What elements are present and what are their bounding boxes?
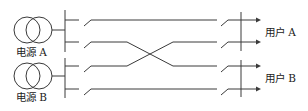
switch-icon [84, 42, 91, 48]
switch-icon [84, 89, 91, 95]
transformer-a-icon [14, 17, 65, 43]
power-wiring-diagram: 电源 A 电源 B [0, 0, 308, 111]
feeder-a-to-user-b [65, 42, 261, 72]
user-a-label: 用户 A [265, 26, 296, 38]
switch-icon [84, 66, 91, 72]
source-a-label: 电源 A [16, 46, 47, 58]
switch-icon [221, 42, 228, 48]
arrow-right-icon [256, 40, 261, 45]
user-b-label: 用户 B [265, 72, 296, 84]
arrow-right-icon [256, 18, 261, 23]
feeder-b-to-user-b [65, 87, 261, 96]
feeder-b-to-user-a [65, 40, 261, 73]
arrow-right-icon [256, 87, 261, 92]
switch-icon [84, 20, 91, 26]
transformer-b-icon [14, 63, 65, 89]
switch-icon [221, 89, 228, 95]
arrow-right-icon [256, 64, 261, 69]
switch-icon [221, 66, 228, 72]
switch-icon [221, 20, 228, 26]
source-b-label: 电源 B [16, 91, 47, 103]
feeder-a-to-user-a [65, 18, 261, 27]
